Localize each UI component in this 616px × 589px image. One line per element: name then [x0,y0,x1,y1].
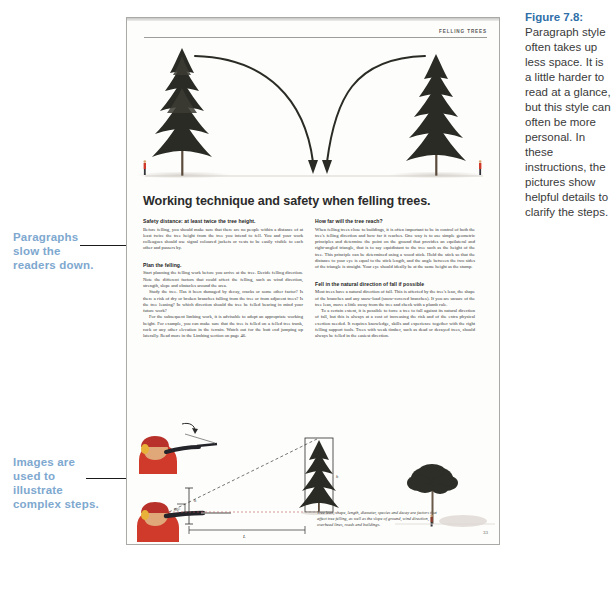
felling-direction-illustration [137,42,489,187]
spruce-tree-left [152,48,212,176]
figure-caption: Figure 7.8: Paragraph style often takes … [525,10,613,220]
text-column-right: How far will the tree reach? When fellin… [315,218,475,344]
worker-figure-right [479,160,482,175]
paragraph: For the subsequent limbing work, it is a… [143,314,303,339]
deciduous-tree-svg [395,458,495,538]
subheading-natural-direction: Fell in the natural direction of fall if… [315,281,475,288]
subheading-how-far-tree-reach: How far will the tree reach? [315,218,475,225]
paragraph: When felling trees close to buildings, i… [315,227,475,271]
fall-arrow-left [308,160,318,174]
paragraph: Start planning the felling work before y… [143,270,303,289]
figure-caption-body: Paragraph style often takes up less spac… [525,25,613,220]
worker-sighting-lower [137,502,231,542]
page-headline: Working technique and safety when fellin… [143,194,485,208]
distance-label: L [242,534,246,539]
subheading-safety-distance: Safety distance: at least twice the tree… [143,218,303,225]
paragraph: Study the tree. Has it been damaged by d… [143,289,303,314]
paragraph: Most trees have a natural direction of f… [315,289,475,308]
deciduous-tree-illustration [395,458,495,538]
worker-figure-bottom [430,515,432,527]
page-top-stripe [127,18,499,21]
book-page: FELLING TREES [126,17,500,545]
fall-arc-right [327,56,425,162]
text-column-left: Safety distance: at least twice the tree… [143,218,303,344]
subheading-plan-the-felling: Plan the felling. [143,262,303,269]
height-label-right: h [336,474,339,479]
fall-arc-left [195,56,313,162]
ground-shadow-left [137,171,231,178]
figure-caption-label: Figure 7.8: [525,10,613,25]
annotation-images-note: Images are used to illustrate complex st… [13,455,113,511]
tree-canopy [407,464,458,494]
header-rule [144,37,487,38]
felling-direction-svg [137,42,489,187]
tree-shadow [439,515,487,527]
fall-arrow-right [322,160,332,174]
annotation-paragraphs-note: Paragraphs slow the readers down. [13,230,105,272]
worker-sighting-upper [139,423,217,474]
paragraph: To a certain extent, it is possible to f… [315,308,475,339]
angle-label: 90° [174,507,180,512]
paragraph: Before felling, you should make sure tha… [143,227,303,252]
height-label-left: h [194,498,197,503]
page-number: 33 [483,530,488,535]
spruce-tree-right [406,54,466,176]
running-header: FELLING TREES [439,29,487,34]
